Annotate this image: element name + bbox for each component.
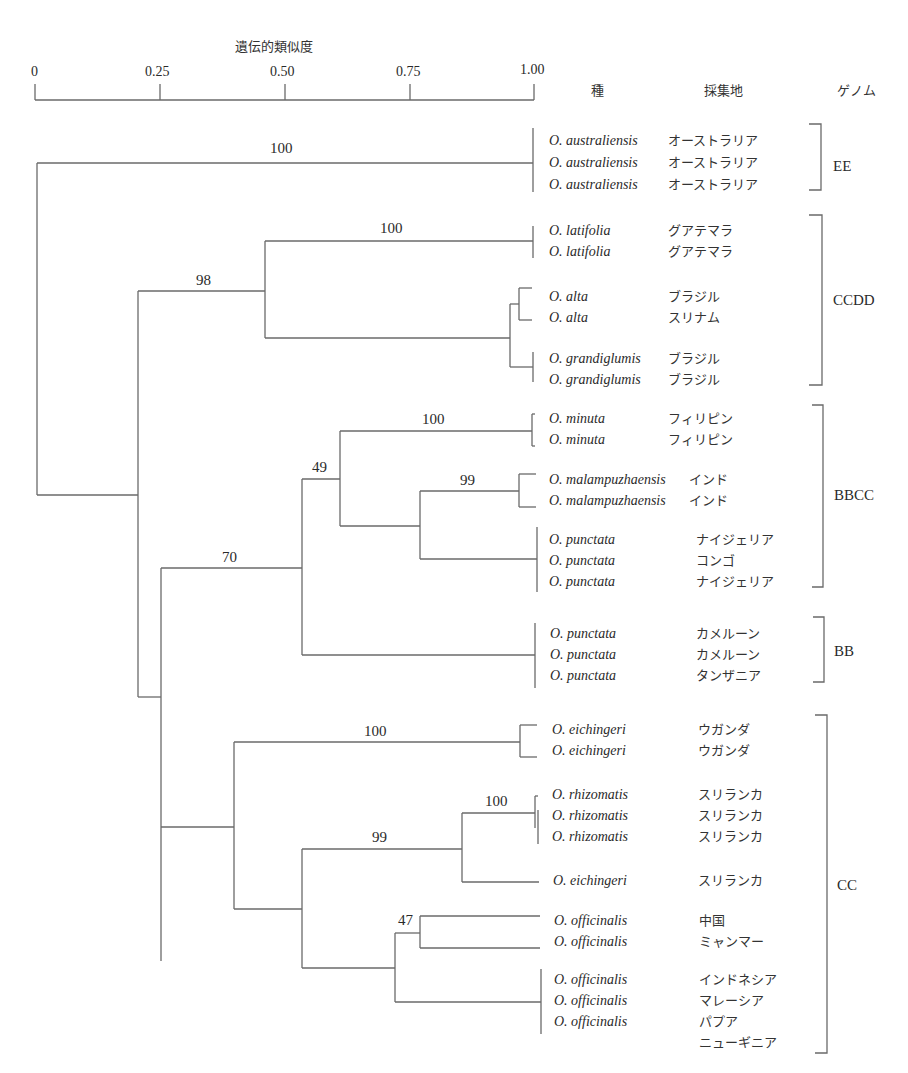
- location-label: ナイジェリア: [696, 574, 774, 589]
- genome-brackets: EE CCDD BBCC BB CC: [809, 124, 875, 1053]
- species-label: O. rhizomatis: [552, 808, 629, 823]
- species-label: O. rhizomatis: [552, 829, 629, 844]
- location-label: スリランカ: [698, 829, 763, 844]
- axis-title: 遺伝的類似度: [235, 39, 313, 54]
- species-label: O. grandiglumis: [549, 351, 641, 366]
- species-label: O. eichingeri: [552, 722, 626, 737]
- tick-label: 0.50: [270, 64, 295, 79]
- location-label: インド: [689, 493, 728, 508]
- dendrogram: 遺伝的類似度 0 0.25 0.50 0.75 1.00 種 採集地 ゲノム: [0, 0, 908, 1073]
- leaf-labels: O. australiensis オーストラリア O. australiensi…: [549, 133, 777, 1050]
- tick-label: 0: [31, 64, 38, 79]
- species-label: O. eichingeri: [552, 743, 626, 758]
- header-species: 種: [591, 83, 604, 98]
- location-label: ウガンダ: [698, 743, 750, 758]
- bootstrap-label: 100: [422, 411, 445, 427]
- species-label: O. punctata: [550, 668, 616, 683]
- species-label: O. latifolia: [549, 244, 610, 259]
- species-label: O. malampuzhaensis: [549, 493, 666, 508]
- location-label: カメルーン: [696, 626, 760, 641]
- species-label: O. australiensis: [549, 155, 638, 170]
- species-label: O. latifolia: [549, 223, 610, 238]
- species-label: O. alta: [549, 289, 588, 304]
- genome-label: EE: [833, 158, 851, 174]
- tick-label: 1.00: [520, 62, 545, 77]
- bracket-ee: [809, 124, 821, 190]
- tick-label: 0.25: [145, 64, 170, 79]
- bracket-ccdd: [809, 215, 822, 385]
- species-label: O. rhizomatis: [552, 787, 629, 802]
- species-label: O. officinalis: [554, 972, 628, 987]
- bootstrap-label: 100: [364, 723, 387, 739]
- location-label: ナイジェリア: [696, 532, 774, 547]
- location-label: オーストラリア: [668, 133, 758, 148]
- bootstrap-label: 100: [485, 793, 508, 809]
- bracket-bbcc: [812, 405, 823, 587]
- location-label: フィリピン: [668, 411, 733, 426]
- bootstrap-label: 99: [372, 829, 387, 845]
- location-label: ミャンマー: [699, 934, 764, 949]
- species-label: O. alta: [549, 310, 588, 325]
- tree-branches: [37, 128, 541, 1034]
- species-label: O. malampuzhaensis: [549, 472, 666, 487]
- location-label: カメルーン: [696, 647, 760, 662]
- location-label: マレーシア: [699, 993, 764, 1008]
- location-label: 中国: [699, 913, 725, 928]
- genome-label: CC: [837, 877, 857, 893]
- location-label: オーストラリア: [668, 177, 758, 192]
- species-label: O. eichingeri: [553, 873, 627, 888]
- location-label: オーストラリア: [668, 155, 758, 170]
- similarity-axis: 遺伝的類似度 0 0.25 0.50 0.75 1.00: [31, 39, 545, 100]
- species-label: O. minuta: [549, 432, 605, 447]
- species-label: O. grandiglumis: [549, 372, 641, 387]
- location-label: グアテマラ: [668, 244, 733, 259]
- species-label: O. officinalis: [554, 934, 628, 949]
- location-label: ニューギニア: [699, 1035, 777, 1050]
- species-label: O. punctata: [549, 553, 615, 568]
- bootstrap-label: 100: [270, 140, 293, 156]
- bootstrap-label: 100: [380, 220, 403, 236]
- tick-label: 0.75: [396, 64, 421, 79]
- location-label: グアテマラ: [668, 223, 733, 238]
- bracket-bb: [813, 617, 824, 682]
- location-label: ブラジル: [668, 351, 720, 366]
- header-location: 採集地: [704, 83, 743, 98]
- species-label: O. punctata: [549, 574, 615, 589]
- location-label: スリナム: [668, 310, 720, 325]
- location-label: ブラジル: [668, 372, 720, 387]
- bootstrap-label: 99: [460, 472, 475, 488]
- genome-label: BBCC: [834, 487, 874, 503]
- location-label: コンゴ: [696, 553, 735, 568]
- location-label: タンザニア: [696, 668, 761, 683]
- genome-label: CCDD: [833, 292, 875, 308]
- species-label: O. australiensis: [549, 177, 638, 192]
- bootstrap-label: 47: [398, 912, 414, 928]
- location-label: スリランカ: [698, 787, 763, 802]
- species-label: O. punctata: [550, 626, 616, 641]
- location-label: インドネシア: [699, 972, 777, 987]
- species-label: O. officinalis: [554, 1014, 628, 1029]
- species-label: O. punctata: [549, 532, 615, 547]
- species-label: O. punctata: [550, 647, 616, 662]
- bootstrap-label: 49: [312, 459, 327, 475]
- location-label: フィリピン: [668, 432, 733, 447]
- bootstrap-values: 100 100 98 100 49 99 70 100 100 99 47: [196, 140, 508, 928]
- bracket-cc: [815, 715, 827, 1053]
- species-label: O. minuta: [549, 411, 605, 426]
- header-genome: ゲノム: [837, 83, 876, 98]
- location-label: インド: [689, 472, 728, 487]
- location-label: ブラジル: [668, 289, 720, 304]
- species-label: O. officinalis: [554, 993, 628, 1008]
- location-label: スリランカ: [698, 808, 763, 823]
- genome-label: BB: [834, 643, 854, 659]
- location-label: スリランカ: [698, 873, 763, 888]
- location-label: ウガンダ: [698, 722, 750, 737]
- bootstrap-label: 98: [196, 272, 211, 288]
- species-label: O. officinalis: [554, 913, 628, 928]
- bootstrap-label: 70: [222, 549, 237, 565]
- location-label: パプア: [699, 1014, 738, 1029]
- species-label: O. australiensis: [549, 133, 638, 148]
